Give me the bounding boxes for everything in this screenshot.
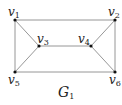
- label-v5: v5: [8, 73, 20, 88]
- edge-v2-v4: [91, 20, 115, 46]
- edge-v4-v6: [91, 46, 115, 72]
- label-v1: v1: [8, 5, 20, 20]
- edge-v1-v3: [15, 20, 39, 46]
- label-v3: v3: [37, 32, 49, 47]
- node-labels: v1 v2 v3 v4 v5 v6: [8, 5, 121, 88]
- graph-title: G1: [58, 84, 74, 101]
- label-v4: v4: [78, 32, 90, 47]
- graph-diagram: v1 v2 v3 v4 v5 v6 G1: [0, 0, 122, 105]
- node-v4: [89, 44, 92, 47]
- edges: [15, 20, 115, 72]
- label-v2: v2: [108, 5, 120, 20]
- edge-v3-v5: [15, 46, 39, 72]
- label-v6: v6: [109, 73, 121, 88]
